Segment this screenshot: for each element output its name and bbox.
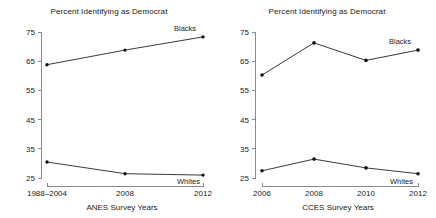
panel-cces: Percent Identifying as Democrat 75 65 55… — [218, 0, 436, 218]
y-tick-label-55-cces: 55 — [240, 86, 249, 95]
x-tick-label-1988-2004-anes: 1988–2004 — [27, 189, 68, 198]
y-tick-label-45-anes: 45 — [26, 116, 35, 125]
y-tick-label-55-anes: 55 — [26, 86, 35, 95]
series-label-whites-anes: Whites — [177, 177, 200, 186]
y-tick-label-45-cces: 45 — [240, 116, 249, 125]
x-axis-title-cces: CCES Survey Years — [302, 203, 374, 212]
y-tick-label-65-cces: 65 — [240, 57, 249, 66]
plot-area-cces: 75 65 55 45 35 25 — [218, 0, 436, 218]
x-tick-label-2012-anes: 2012 — [194, 189, 212, 198]
series-label-blacks-cces: Blacks — [389, 37, 411, 46]
x-tick-label-2008-anes: 2008 — [116, 189, 134, 198]
y-tick-marks-cces — [252, 32, 256, 178]
y-tick-label-25-cces: 25 — [240, 174, 249, 183]
series-points-whites-cces — [260, 157, 420, 175]
y-tick-label-25-anes: 25 — [26, 174, 35, 183]
x-axis-title-anes: ANES Survey Years — [86, 203, 157, 212]
y-tick-label-35-anes: 35 — [26, 145, 35, 154]
x-tick-label-2006-cces: 2006 — [253, 189, 271, 198]
x-tick-label-2010-cces: 2010 — [357, 189, 375, 198]
y-tick-label-75-cces: 75 — [240, 28, 249, 37]
y-tick-label-75-anes: 75 — [26, 28, 35, 37]
series-label-blacks-anes: Blacks — [174, 24, 196, 33]
figure-two-panel-line-charts: Percent Identifying as Democrat 75 65 55… — [0, 0, 436, 218]
series-label-whites-cces: Whites — [390, 177, 413, 186]
series-points-blacks-cces — [260, 41, 420, 77]
plot-area-anes: 75 65 55 45 35 25 — [0, 0, 218, 218]
x-tick-label-2012-cces: 2012 — [409, 189, 427, 198]
series-line-blacks-cces — [262, 43, 418, 75]
y-tick-label-35-cces: 35 — [240, 145, 249, 154]
y-tick-marks-anes — [38, 32, 42, 178]
y-tick-label-65-anes: 65 — [26, 57, 35, 66]
x-tick-label-2008-cces: 2008 — [305, 189, 323, 198]
series-points-blacks-anes — [45, 35, 204, 66]
series-line-whites-cces — [262, 159, 418, 174]
panel-anes: Percent Identifying as Democrat 75 65 55… — [0, 0, 218, 218]
